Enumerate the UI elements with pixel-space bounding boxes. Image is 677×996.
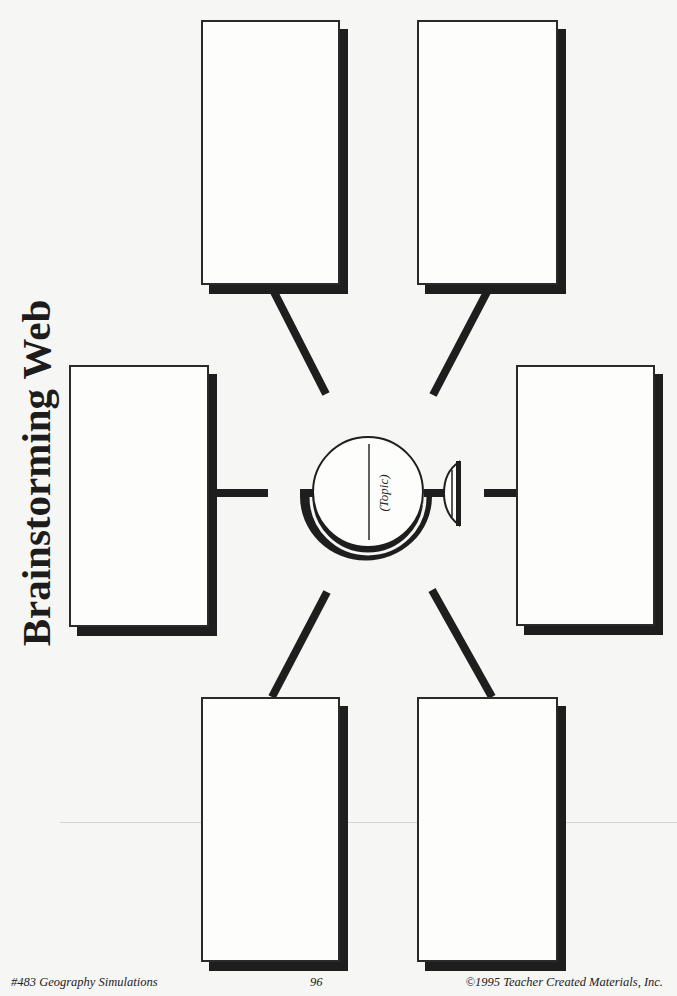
connector-top-left (274, 292, 326, 394)
topic-label: (Topic) (372, 470, 396, 516)
web-box-bottom-left[interactable] (201, 697, 340, 962)
footer-page-number: 96 (310, 975, 323, 990)
web-box-top-left[interactable] (201, 20, 340, 285)
footer-copyright: ©1995 Teacher Created Materials, Inc. (466, 975, 663, 990)
connector-bottom-left (272, 592, 327, 697)
web-box-middle-right[interactable] (516, 365, 655, 626)
web-box-middle-left[interactable] (69, 365, 209, 627)
web-box-top-right[interactable] (417, 20, 558, 285)
web-box-bottom-right[interactable] (417, 697, 558, 962)
footer-book-title: #483 Geography Simulations (11, 975, 158, 990)
connector-top-right (433, 292, 487, 395)
connector-bottom-right (432, 590, 492, 697)
